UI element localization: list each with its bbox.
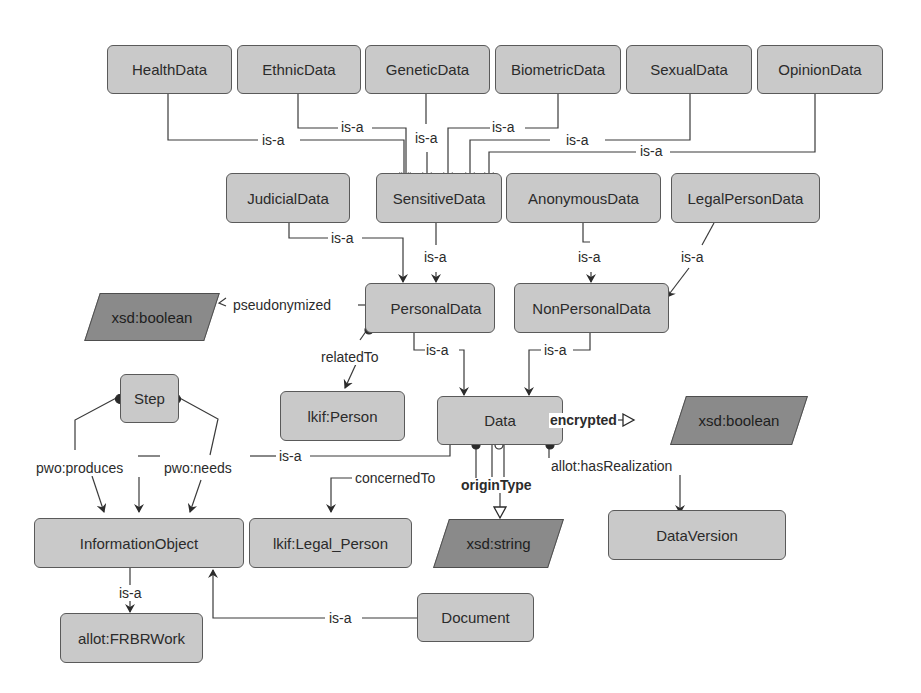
node-opinion-data[interactable]: OpinionData [757, 45, 883, 94]
node-label: lkif:Person [307, 408, 377, 425]
node-lkif-person[interactable]: lkif:Person [280, 391, 405, 441]
node-label: DataVersion [656, 527, 738, 544]
node-personal-data[interactable]: PersonalData [365, 283, 495, 333]
node-label: JudicialData [247, 190, 329, 207]
node-anonymous-data[interactable]: AnonymousData [506, 173, 661, 223]
datatype-xsd-string[interactable]: xsd:string [441, 519, 556, 568]
node-label: InformationObject [80, 535, 198, 552]
edge-label-isa-genetic: is-a [414, 131, 439, 146]
node-lkif-legal-person[interactable]: lkif:Legal_Person [249, 518, 412, 568]
node-label: LegalPersonData [688, 190, 804, 207]
node-label: PersonalData [379, 300, 482, 317]
datatype-label: xsd:boolean [112, 309, 193, 326]
node-label: NonPersonalData [532, 300, 650, 317]
edge-label-origin-type: originType [460, 478, 533, 493]
edge-label-isa-data-infoobject: is-a [278, 449, 303, 464]
edge-label-isa-health: is-a [261, 133, 286, 148]
datatype-xsd-boolean-pseudonymized[interactable]: xsd:boolean [92, 293, 212, 341]
node-ethnic-data[interactable]: EthnicData [237, 45, 361, 94]
node-information-object[interactable]: InformationObject [34, 518, 244, 568]
node-sensitive-data[interactable]: SensitiveData [376, 173, 502, 223]
node-label: EthnicData [262, 61, 335, 78]
node-allot-frbrwork[interactable]: allot:FRBRWork [60, 613, 203, 663]
node-non-personal-data[interactable]: NonPersonalData [514, 283, 669, 333]
edge-label-isa-legalperson: is-a [680, 250, 705, 265]
node-label: allot:FRBRWork [78, 630, 185, 647]
node-label: SensitiveData [393, 190, 486, 207]
node-label: Data [484, 412, 516, 429]
node-legal-person-data[interactable]: LegalPersonData [671, 173, 820, 223]
edge-label-isa-opinion: is-a [639, 144, 664, 159]
datatype-xsd-boolean-encrypted[interactable]: xsd:boolean [678, 396, 800, 445]
edge-label-isa-biometric: is-a [491, 120, 516, 135]
edge-label-encrypted: encrypted [549, 413, 618, 428]
ontology-diagram: HealthData EthnicData GeneticData Biomet… [0, 0, 921, 693]
node-label: GeneticData [386, 61, 469, 78]
edge-label-isa-ethnic: is-a [340, 120, 365, 135]
edge-label-has-realization: allot:hasRealization [550, 459, 673, 474]
edge-label-isa-personal: is-a [425, 343, 450, 358]
node-genetic-data[interactable]: GeneticData [365, 45, 490, 94]
node-step[interactable]: Step [120, 374, 179, 423]
node-judicial-data[interactable]: JudicialData [226, 173, 350, 223]
edge-label-pwo-produces: pwo:produces [35, 461, 124, 476]
edge-label-isa-sexual: is-a [565, 133, 590, 148]
edge-label-isa-document: is-a [328, 611, 353, 626]
edge-label-isa-sensitive: is-a [423, 250, 448, 265]
datatype-label: xsd:string [466, 535, 530, 552]
edge-label-pseudonymized: pseudonymized [232, 298, 332, 313]
node-sexual-data[interactable]: SexualData [626, 45, 752, 94]
node-health-data[interactable]: HealthData [107, 45, 232, 94]
node-label: AnonymousData [528, 190, 639, 207]
node-document[interactable]: Document [417, 593, 534, 642]
datatype-label: xsd:boolean [699, 412, 780, 429]
node-label: SexualData [650, 61, 728, 78]
edge-label-concerned-to: concernedTo [354, 471, 436, 486]
edge-label-isa-anonymous: is-a [577, 250, 602, 265]
edge-label-pwo-needs: pwo:needs [163, 461, 233, 476]
node-data-version[interactable]: DataVersion [608, 510, 786, 560]
node-label: HealthData [132, 61, 207, 78]
node-biometric-data[interactable]: BiometricData [495, 45, 621, 94]
edge-label-related-to: relatedTo [320, 350, 380, 365]
node-data[interactable]: Data [437, 396, 563, 445]
edge-label-isa-judicial: is-a [330, 231, 355, 246]
node-label: BiometricData [511, 61, 605, 78]
node-label: lkif:Legal_Person [273, 535, 388, 552]
edge-label-isa-frbrwork: is-a [118, 586, 143, 601]
node-label: Document [441, 609, 509, 626]
node-label: Step [134, 390, 165, 407]
node-label: OpinionData [778, 61, 861, 78]
edge-label-isa-nonpersonal: is-a [543, 343, 568, 358]
